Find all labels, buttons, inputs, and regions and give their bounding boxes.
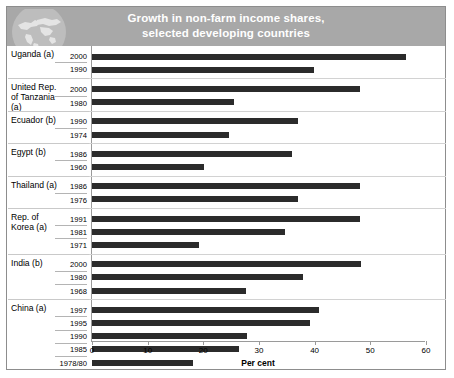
- country-label: United Rep. of Tanzania (a): [11, 83, 59, 112]
- year-label: 1971: [55, 239, 87, 252]
- year-list: 19861960: [55, 148, 87, 174]
- year-list: 20001980: [55, 83, 87, 109]
- chart-title-line2: selected developing countries: [142, 27, 310, 39]
- bar: [92, 99, 234, 105]
- year-label: 1976: [55, 194, 87, 207]
- country-label: Ecuador (b): [11, 116, 59, 126]
- category-group: United Rep. of Tanzania (a)20001980: [8, 78, 89, 110]
- bar: [92, 229, 285, 235]
- category-group: Thailand (a)19861976: [8, 176, 89, 208]
- bar: [92, 288, 246, 294]
- year-label: 1985: [55, 344, 87, 357]
- year-label: 1990: [55, 331, 87, 344]
- year-list: 19861976: [55, 181, 87, 207]
- group-separator: [89, 208, 446, 209]
- category-group: Rep. of Korea (a)199119811971: [8, 208, 89, 254]
- year-label: 2000: [55, 83, 87, 96]
- x-axis: Per cent 0102030405060: [89, 341, 446, 371]
- bar: [92, 86, 360, 92]
- x-axis-tick: [148, 341, 149, 345]
- year-label: 1995: [55, 317, 87, 330]
- x-axis-tick: [92, 341, 93, 345]
- bar: [92, 164, 204, 170]
- bar: [92, 118, 298, 124]
- category-label-column: Uganda (a)20001990United Rep. of Tanzani…: [8, 46, 89, 341]
- category-group: China (a)19971995199019851978/80: [8, 299, 89, 371]
- bar: [92, 307, 319, 313]
- year-label: 1980: [55, 97, 87, 110]
- bar: [92, 242, 199, 248]
- year-list: 199119811971: [55, 213, 87, 253]
- bar: [92, 320, 310, 326]
- bar: [92, 196, 298, 202]
- country-label: Egypt (b): [11, 148, 59, 158]
- bar: [92, 274, 303, 280]
- plot-area: [89, 46, 446, 341]
- bar: [92, 54, 406, 60]
- category-group: Egypt (b)19861960: [8, 143, 89, 175]
- x-axis-tick-label: 60: [421, 346, 430, 355]
- year-list: 19901974: [55, 116, 87, 142]
- group-separator: [89, 111, 446, 112]
- category-group: Ecuador (b)19901974: [8, 111, 89, 143]
- year-label: 1974: [55, 129, 87, 142]
- x-axis-tick: [203, 341, 204, 345]
- chart-title-line1: Growth in non-farm income shares,: [128, 12, 325, 24]
- x-axis-tick: [315, 341, 316, 345]
- year-label: 1986: [55, 181, 87, 194]
- group-separator: [89, 78, 446, 79]
- chart-header: Growth in non-farm income shares, select…: [7, 7, 445, 46]
- year-label: 2000: [55, 259, 87, 272]
- chart-title: Growth in non-farm income shares, select…: [7, 11, 445, 41]
- year-label: 1981: [55, 226, 87, 239]
- year-label: 1986: [55, 148, 87, 161]
- bar: [92, 67, 314, 73]
- year-label: 1968: [55, 285, 87, 298]
- x-axis-tick-label: 10: [143, 346, 152, 355]
- x-axis-tick: [370, 341, 371, 345]
- year-list: 20001990: [55, 50, 87, 76]
- country-label: China (a): [11, 304, 59, 314]
- country-label: India (b): [11, 259, 59, 269]
- x-axis-tick: [426, 341, 427, 345]
- category-group: Uganda (a)20001990: [8, 46, 89, 78]
- chart-frame: Growth in non-farm income shares, select…: [6, 6, 446, 370]
- group-separator: [89, 143, 446, 144]
- country-label: Uganda (a): [11, 50, 59, 60]
- year-label: 1991: [55, 213, 87, 226]
- x-axis-tick-label: 20: [199, 346, 208, 355]
- x-axis-tick-label: 30: [254, 346, 263, 355]
- bar: [92, 183, 360, 189]
- x-axis-tick-label: 50: [366, 346, 375, 355]
- year-label: 2000: [55, 50, 87, 63]
- bar: [92, 261, 361, 267]
- country-label: Thailand (a): [11, 181, 59, 191]
- year-label: 1990: [55, 63, 87, 76]
- year-label: 1978/80: [55, 357, 87, 370]
- year-label: 1960: [55, 161, 87, 174]
- bar: [92, 132, 229, 138]
- year-label: 1990: [55, 116, 87, 129]
- country-label: Rep. of Korea (a): [11, 213, 59, 232]
- x-axis-tick-label: 0: [90, 346, 94, 355]
- x-axis-title: Per cent: [91, 358, 425, 368]
- year-label: 1997: [55, 304, 87, 317]
- group-separator: [89, 299, 446, 300]
- year-label: 1980: [55, 272, 87, 285]
- group-separator: [89, 254, 446, 255]
- year-list: 200019801968: [55, 259, 87, 299]
- year-list: 19971995199019851978/80: [55, 304, 87, 370]
- x-axis-tick: [259, 341, 260, 345]
- group-separator: [89, 176, 446, 177]
- bar: [92, 216, 360, 222]
- category-group: India (b)200019801968: [8, 254, 89, 300]
- bar: [92, 333, 247, 339]
- bar: [92, 151, 292, 157]
- x-axis-tick-label: 40: [310, 346, 319, 355]
